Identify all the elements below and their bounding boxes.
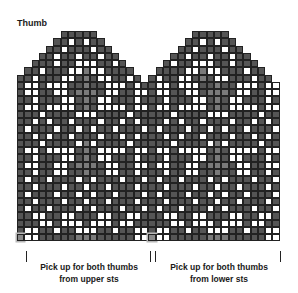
stitch-cell [170, 96, 177, 103]
stitch-cell [258, 227, 265, 234]
stitch-cell [134, 198, 141, 205]
stitch-cell [178, 162, 185, 169]
stitch-cell [68, 183, 75, 190]
stitch-cell [46, 162, 53, 169]
stitch-cell [39, 75, 46, 82]
stitch-cell [265, 176, 272, 183]
stitch-cell [199, 75, 206, 82]
stitch-cell [53, 96, 60, 103]
stitch-cell [185, 104, 192, 111]
stitch-cell [192, 46, 199, 53]
stitch-cell [178, 111, 185, 118]
stitch-cell [119, 220, 126, 227]
stitch-cell [126, 46, 133, 53]
stitch-cell [83, 176, 90, 183]
stitch-cell [170, 212, 177, 219]
stitch-cell [272, 169, 279, 176]
stitch-cell [185, 133, 192, 140]
stitch-cell [192, 234, 199, 241]
stitch-cell [272, 205, 279, 212]
stitch-cell [243, 227, 250, 234]
stitch-cell [141, 38, 148, 45]
stitch-cell [243, 125, 250, 132]
stitch-cell [112, 176, 119, 183]
stitch-cell [32, 191, 39, 198]
stitch-cell [258, 154, 265, 161]
stitch-cell [126, 31, 133, 38]
stitch-cell [251, 82, 258, 89]
stitch-cell [126, 38, 133, 45]
stitch-cell [156, 96, 163, 103]
stitch-cell [39, 104, 46, 111]
stitch-cell [61, 169, 68, 176]
stitch-cell [148, 111, 155, 118]
stitch-cell [75, 140, 82, 147]
stitch-cell [251, 125, 258, 132]
stitch-cell [90, 38, 97, 45]
stitch-cell [214, 75, 221, 82]
stitch-cell [53, 53, 60, 60]
stitch-cell [258, 191, 265, 198]
stitch-cell [105, 38, 112, 45]
stitch-cell [134, 162, 141, 169]
stitch-cell [207, 176, 214, 183]
stitch-cell [207, 140, 214, 147]
stitch-cell [32, 183, 39, 190]
stitch-cell [229, 53, 236, 60]
stitch-cell [83, 162, 90, 169]
stitch-cell [17, 82, 24, 89]
stitch-cell [32, 147, 39, 154]
stitch-cell [170, 133, 177, 140]
stitch-cell [119, 89, 126, 96]
stitch-cell [214, 46, 221, 53]
stitch-cell [83, 75, 90, 82]
stitch-cell [178, 67, 185, 74]
stitch-cell [207, 60, 214, 67]
chart-row [17, 220, 280, 227]
stitch-cell [229, 38, 236, 45]
stitch-cell [141, 31, 148, 38]
stitch-cell [46, 198, 53, 205]
stitch-cell [229, 162, 236, 169]
stitch-cell [214, 60, 221, 67]
stitch-cell [105, 234, 112, 241]
stitch-cell [68, 96, 75, 103]
stitch-cell [75, 169, 82, 176]
stitch-cell [243, 82, 250, 89]
stitch-cell [221, 220, 228, 227]
stitch-cell [199, 53, 206, 60]
stitch-cell [61, 212, 68, 219]
stitch-cell [112, 67, 119, 74]
stitch-cell [185, 220, 192, 227]
chart-row [17, 176, 280, 183]
stitch-cell [185, 154, 192, 161]
stitch-cell [83, 154, 90, 161]
stitch-cell [46, 205, 53, 212]
stitch-cell [46, 75, 53, 82]
stitch-cell [199, 96, 206, 103]
stitch-cell [199, 118, 206, 125]
stitch-cell [97, 191, 104, 198]
stitch-cell [83, 82, 90, 89]
stitch-cell [68, 67, 75, 74]
stitch-cell [236, 133, 243, 140]
stitch-cell [192, 75, 199, 82]
stitch-cell [178, 118, 185, 125]
stitch-cell [207, 89, 214, 96]
stitch-cell [148, 46, 155, 53]
stitch-cell [178, 227, 185, 234]
stitch-cell [119, 96, 126, 103]
stitch-cell [170, 183, 177, 190]
stitch-cell [148, 104, 155, 111]
chart-row [17, 133, 280, 140]
stitch-cell [90, 191, 97, 198]
stitch-cell [163, 154, 170, 161]
stitch-cell [134, 75, 141, 82]
stitch-cell [32, 104, 39, 111]
stitch-cell [221, 96, 228, 103]
stitch-cell [53, 75, 60, 82]
stitch-cell [119, 176, 126, 183]
stitch-cell [265, 140, 272, 147]
stitch-cell [221, 111, 228, 118]
stitch-cell [192, 118, 199, 125]
